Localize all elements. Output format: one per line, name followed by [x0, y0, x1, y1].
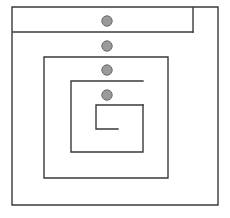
node-dot-2: [102, 41, 112, 51]
node-dot-4: [102, 90, 112, 100]
node-dot-3: [102, 65, 112, 75]
spiral-diagram-figure: [0, 0, 230, 218]
node-dot-1: [102, 16, 112, 26]
spiral-diagram-canvas: [0, 0, 230, 218]
